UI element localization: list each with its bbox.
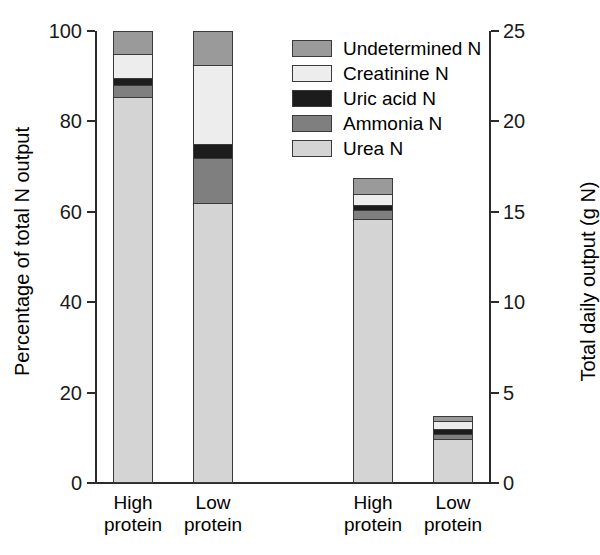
bar-segment [194,65,232,144]
left-axis-line [95,31,97,483]
bar-segment [114,85,152,96]
bar-segment [194,158,232,203]
bar-segment [194,203,232,483]
legend-swatch [292,40,332,57]
legend-label: Urea N [343,139,403,158]
left-axis-label: Percentage of total N output [11,82,34,422]
category-label: Lowprotein [153,492,273,536]
right-tick-label: 0 [503,473,514,493]
left-tick-label: 0 [0,473,82,493]
category-label: Lowprotein [393,492,513,536]
legend-item: Ammonia N [292,111,481,136]
right-tick-labels: 0510152025 [503,0,578,555]
right-tick [491,301,499,303]
left-tick [87,301,95,303]
bar-segment [194,31,232,65]
bar-segment [114,54,152,79]
right-tick-label: 10 [503,292,525,312]
bar-segment [354,178,392,194]
bar-segment [354,219,392,483]
legend: Undetermined NCreatinine NUric acid NAmm… [292,36,481,161]
bar-segment [194,144,232,158]
legend-item: Undetermined N [292,36,481,61]
legend-label: Undetermined N [343,39,481,58]
bar-2 [193,31,233,483]
legend-item: Urea N [292,136,481,161]
right-axis-label: Total daily output (g N) [577,112,600,452]
left-tick [87,30,95,32]
legend-swatch [292,140,332,157]
right-tick [491,30,499,32]
right-tick-label: 20 [503,111,525,131]
right-tick [491,392,499,394]
left-tick [87,211,95,213]
legend-swatch [292,115,332,132]
bar-segment [434,439,472,483]
left-tick [87,392,95,394]
bottom-axis-line [95,482,491,484]
right-tick-label: 5 [503,383,514,403]
bar-segment [114,78,152,85]
right-tick [491,211,499,213]
legend-swatch [292,65,332,82]
bar-4 [433,416,473,483]
left-tick-label: 100 [0,21,82,41]
bar-segment [114,97,152,483]
legend-label: Creatinine N [343,64,449,83]
bar-1 [113,31,153,483]
right-tick-label: 25 [503,21,525,41]
bar-segment [434,421,472,429]
legend-swatch [292,90,332,107]
right-tick [491,120,499,122]
legend-item: Creatinine N [292,61,481,86]
legend-item: Uric acid N [292,86,481,111]
right-tick-label: 15 [503,202,525,222]
bar-3 [353,178,393,483]
left-tick [87,482,95,484]
bar-segment [354,210,392,219]
right-axis-line [489,31,491,483]
bar-segment [354,194,392,205]
legend-label: Uric acid N [343,89,436,108]
legend-label: Ammonia N [343,114,442,133]
bar-segment [114,31,152,54]
right-tick [491,482,499,484]
left-tick [87,120,95,122]
